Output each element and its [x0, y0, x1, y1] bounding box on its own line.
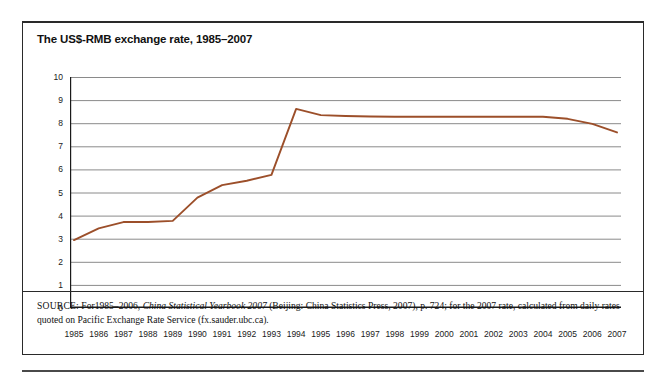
source-divider — [23, 291, 643, 292]
y-tick-label: 9 — [41, 95, 63, 105]
y-axis-labels: 109876543210 — [41, 77, 65, 308]
y-tick-label: 1 — [41, 280, 63, 290]
y-tick-label: 4 — [41, 211, 63, 221]
source-label: SOURCE: — [37, 300, 79, 311]
chart-plot-area — [70, 77, 621, 308]
y-tick-label: 7 — [41, 141, 63, 151]
gridlines — [70, 78, 621, 286]
source-text-first: For1985–2006, — [79, 300, 143, 311]
exchange-rate-line — [74, 109, 617, 240]
y-tick-label: 5 — [41, 188, 63, 198]
figure-container: The US$-RMB exchange rate, 1985–2007 109… — [22, 21, 644, 355]
y-tick-label: 10 — [41, 72, 63, 82]
source-title-italic: China Statistical Yearbook 2007 — [143, 300, 267, 311]
y-tick-label: 6 — [41, 164, 63, 174]
page-bottom-rule — [22, 370, 644, 372]
x-tick-label: 2007 — [600, 329, 634, 339]
x-axis-labels: 1985198619871988198919901991199219931994… — [70, 329, 621, 345]
figure-title: The US$-RMB exchange rate, 1985–2007 — [37, 33, 252, 45]
y-tick-label: 8 — [41, 118, 63, 128]
page-top-cut-text — [26, 0, 456, 8]
y-tick-label: 3 — [41, 234, 63, 244]
source-note: SOURCE: For1985–2006, China Statistical … — [37, 299, 629, 326]
y-tick-label: 2 — [41, 257, 63, 267]
